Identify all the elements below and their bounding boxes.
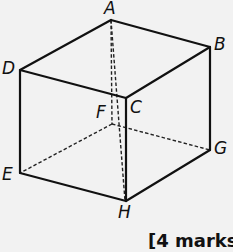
cuboid-diagram (0, 0, 233, 252)
vertex-label-a: A (104, 0, 116, 17)
edge-gh (126, 150, 210, 201)
vertex-label-h: H (118, 204, 131, 221)
edge-ad (20, 20, 111, 70)
diagonal-ah (111, 20, 125, 201)
vertex-label-c: C (130, 99, 142, 116)
edge-dc (20, 70, 126, 98)
vertex-label-d: D (2, 60, 15, 77)
vertex-label-f: F (96, 104, 106, 121)
vertex-label-b: B (214, 36, 226, 53)
edge-ab (111, 20, 210, 47)
marks-label: [4 marks] (148, 230, 233, 251)
vertex-label-g: G (214, 140, 227, 157)
edge-af (111, 20, 112, 124)
vertex-label-e: E (2, 166, 13, 183)
edge-fe (20, 124, 112, 173)
edge-bc (126, 47, 210, 98)
edge-eh (20, 173, 126, 201)
